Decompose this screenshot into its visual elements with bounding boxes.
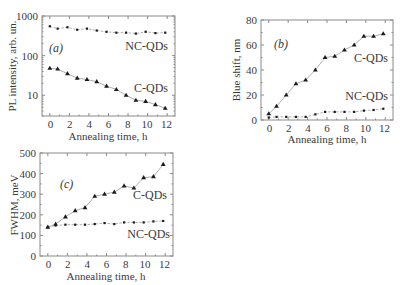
y-tick-label: 500 (20, 147, 37, 159)
figure: 1000 100 10 0 2 4 6 8 10 12 Annealing ti… (0, 0, 403, 285)
dot-marker (133, 221, 135, 223)
triangle-marker (124, 93, 129, 97)
dot-marker (135, 32, 137, 34)
dot-marker (285, 116, 287, 118)
triangle-marker (112, 190, 117, 194)
y-tick-label: 100 (22, 50, 39, 62)
x-tick-labels: 0 2 4 6 8 10 12 (48, 118, 172, 130)
axis-ticks (42, 16, 175, 116)
plot-area (47, 25, 167, 110)
dot-marker (382, 108, 384, 110)
triangle-marker (361, 34, 366, 38)
dot-marker (162, 220, 164, 222)
x-tick-label: 12 (159, 258, 170, 270)
x-tick-label: 0 (267, 122, 273, 134)
y-tick-label: 400 (20, 168, 37, 180)
y-tick-label: 100 (20, 229, 37, 241)
x-tick-label: 0 (48, 118, 54, 130)
x-tick-label: 6 (106, 118, 112, 130)
x-tick-label: 4 (84, 258, 90, 270)
dot-marker (47, 226, 49, 228)
dot-marker (115, 32, 117, 34)
dot-marker (74, 224, 76, 226)
x-tick-labels: 0 2 4 6 8 10 12 (46, 258, 170, 270)
dot-marker (363, 110, 365, 112)
x-tick-label: 6 (104, 258, 110, 270)
dot-marker (268, 116, 270, 118)
x-tick-label: 12 (379, 122, 390, 134)
y-tick-label: 40 (246, 64, 258, 76)
dot-marker (143, 221, 145, 223)
triangle-marker (47, 66, 52, 70)
dot-marker (64, 224, 66, 226)
y-axis-title: PL intensity, arb. un. (6, 20, 18, 111)
series-label-c-qds: C-QDs (133, 188, 167, 202)
triangle-marker (161, 162, 166, 166)
x-tick-label: 2 (65, 258, 71, 270)
x-tick-label: 2 (67, 118, 73, 130)
dot-marker (295, 116, 297, 118)
panel-label: (a) (49, 41, 63, 55)
dot-marker (125, 32, 127, 34)
y-axis-title: FWHM, meV (8, 174, 20, 235)
series-nc-qds (268, 108, 385, 119)
dot-marker (145, 31, 147, 33)
y-tick-label: 20 (246, 89, 258, 101)
y-tick-label: 10 (27, 89, 39, 101)
y-axis-title: Blue shift, nm (230, 38, 242, 101)
dot-marker (94, 223, 96, 225)
x-axis-title: Annealing time, h (66, 270, 146, 282)
dot-marker (334, 111, 336, 113)
x-tick-label: 10 (142, 118, 154, 130)
dot-marker (314, 113, 316, 115)
series-label-nc-qds: NC-QDs (127, 227, 170, 241)
series-label-c-qds: C-QDs (354, 51, 388, 65)
dot-marker (96, 29, 98, 31)
dot-marker (343, 111, 345, 113)
panel-label: (b) (274, 37, 288, 51)
dot-marker (105, 31, 107, 33)
panel-label: (c) (60, 177, 73, 191)
dot-marker (49, 25, 51, 27)
x-tick-label: 8 (125, 118, 131, 130)
dot-marker (152, 220, 154, 222)
triangle-marker (122, 183, 127, 187)
chart-b: 80 60 40 20 0 0 2 4 6 8 10 12 Annealing … (230, 14, 393, 145)
dot-marker (154, 32, 156, 34)
dot-marker (103, 222, 105, 224)
series-nc-qds (49, 25, 167, 34)
x-tick-label: 10 (140, 258, 152, 270)
dot-marker (55, 224, 57, 226)
x-tick-label: 0 (46, 258, 52, 270)
series-label-c-qds: C-QDs (134, 81, 168, 95)
dot-marker (372, 109, 374, 111)
dot-marker (66, 26, 68, 28)
dot-marker (305, 116, 307, 118)
triangle-marker (381, 31, 386, 35)
dot-marker (324, 111, 326, 113)
dot-marker (275, 116, 277, 118)
dot-marker (76, 29, 78, 31)
dot-marker (86, 28, 88, 30)
x-axis-title: Annealing time, h (287, 133, 367, 145)
dot-marker (353, 111, 355, 113)
plot-frame (42, 16, 175, 116)
dot-marker (113, 223, 115, 225)
x-axis-title: Annealing time, h (68, 130, 148, 142)
y-tick-label: 1000 (16, 10, 39, 22)
x-tick-label: 12 (161, 118, 172, 130)
triangle-marker (332, 54, 337, 58)
series-label-nc-qds: NC-QDs (125, 39, 168, 53)
y-tick-label: 300 (20, 188, 37, 200)
chart-a: 1000 100 10 0 2 4 6 8 10 12 Annealing ti… (6, 10, 175, 142)
y-tick-label: 80 (246, 14, 258, 26)
dot-marker (84, 224, 86, 226)
dot-marker (164, 32, 166, 34)
dot-marker (123, 221, 125, 223)
triangle-marker (63, 214, 68, 218)
y-tick-label: 200 (20, 209, 37, 221)
y-tick-label: 0 (252, 114, 258, 126)
x-tick-label: 4 (86, 118, 92, 130)
dot-marker (57, 28, 59, 30)
y-tick-label: 60 (246, 39, 258, 51)
